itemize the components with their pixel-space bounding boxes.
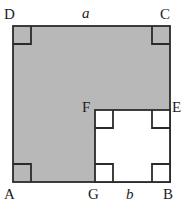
vertex-label-b: B bbox=[163, 187, 173, 202]
vertex-label-d: D bbox=[4, 7, 15, 22]
vertex-label-c: C bbox=[160, 7, 170, 22]
figure-canvas bbox=[0, 0, 185, 215]
vertex-label-a: A bbox=[4, 187, 15, 202]
vertex-label-f: F bbox=[82, 100, 90, 115]
side-length-label-a: a bbox=[82, 6, 90, 21]
side-length-label-b: b bbox=[126, 187, 134, 202]
inner-square-fgbe bbox=[95, 110, 170, 182]
geometry-figure: D a C F E A G b B bbox=[0, 0, 185, 215]
vertex-label-g: G bbox=[88, 187, 99, 202]
vertex-label-e: E bbox=[172, 100, 181, 115]
